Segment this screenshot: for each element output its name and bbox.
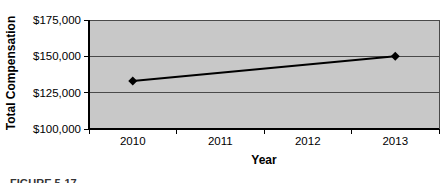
x-tick-label: 2013 bbox=[382, 135, 408, 147]
y-axis-title: Total Compensation bbox=[4, 0, 18, 148]
figure-caption: FIGURE 5-17 bbox=[10, 176, 77, 183]
compensation-line-chart: $100,000$125,000$150,000$175,00020102011… bbox=[0, 0, 447, 183]
x-axis-title: Year bbox=[89, 153, 439, 167]
y-tick-label: $100,000 bbox=[33, 123, 81, 135]
y-tick-label: $175,000 bbox=[33, 14, 81, 26]
y-tick-label: $150,000 bbox=[33, 50, 81, 62]
x-tick-label: 2010 bbox=[120, 135, 146, 147]
x-tick-label: 2011 bbox=[208, 135, 233, 147]
x-tick-label: 2012 bbox=[295, 135, 321, 147]
plot-area bbox=[89, 20, 439, 129]
y-tick-label: $125,000 bbox=[33, 87, 81, 99]
